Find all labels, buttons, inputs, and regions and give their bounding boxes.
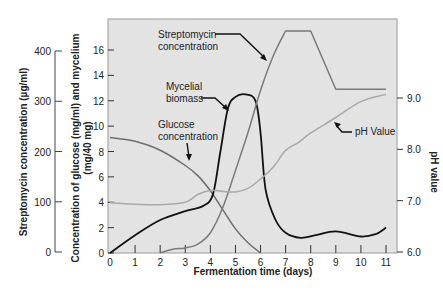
y3-tick-label: 0: [45, 247, 51, 258]
y-tick-label: 16: [93, 45, 105, 56]
y2-tick-label: 9.0: [407, 93, 421, 104]
y2-tick-label: 6.0: [407, 247, 421, 258]
y3-tick-label: 400: [34, 46, 51, 57]
y-axis-title-line1: Concentration of glucose (mg/ml) and myc…: [70, 33, 81, 262]
y-tick-label: 14: [93, 70, 105, 81]
x-tick-label: 1: [132, 257, 138, 268]
y3-axis-title: Streptomycin concentration (µg/ml): [18, 68, 29, 237]
y2-tick-label: 8.0: [407, 144, 421, 155]
y3-tick-label: 300: [34, 96, 51, 107]
annotation-mycelial-line1: Mycelial: [166, 81, 202, 92]
plot-area: [108, 19, 397, 253]
y2-tick-label: 7.0: [407, 196, 421, 207]
annotation-glucose-line1: Glucose: [158, 119, 195, 130]
y2-axis-title: pH value: [429, 151, 440, 193]
annotation-streptomycin-line2: concentration: [158, 41, 218, 52]
y-tick-label: 8: [98, 147, 104, 158]
y-tick-label: 10: [93, 121, 105, 132]
x-tick-label: 0: [107, 257, 113, 268]
y-tick-label: 12: [93, 96, 105, 107]
x-tick-label: 2: [157, 257, 163, 268]
annotation-glucose-line2: concentration: [158, 131, 218, 142]
annotation-mycelial-line2: biomass: [166, 93, 203, 104]
x-tick-label: 3: [182, 257, 188, 268]
annotation-streptomycin-line1: Streptomycin: [158, 29, 216, 40]
annotation-ph-value: pH Value: [355, 126, 396, 137]
x-tick-label: 9: [333, 257, 339, 268]
y3-tick-label: 100: [34, 197, 51, 208]
x-axis-title: Fermentation time (days): [194, 266, 313, 277]
y-tick-label: 4: [98, 197, 104, 208]
chart: 0123456789101102468101214166.07.08.09.00…: [0, 0, 443, 290]
x-tick-label: 10: [355, 257, 367, 268]
y3-tick-label: 200: [34, 147, 51, 158]
y-tick-label: 0: [98, 248, 104, 259]
y-tick-label: 2: [98, 223, 104, 234]
y-tick-label: 6: [98, 172, 104, 183]
y-axis-title-line2: (mg/40 mg): [82, 121, 93, 174]
x-tick-label: 11: [381, 257, 392, 268]
